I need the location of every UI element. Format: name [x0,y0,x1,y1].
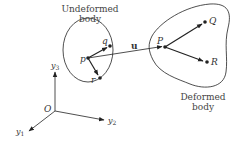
y1-axis [29,111,55,131]
u-label: u [131,41,138,51]
PR-vector [165,47,203,61]
point-R [205,60,209,64]
point-P [163,45,167,49]
undeformed-body: Undeformed body p q r [61,4,118,85]
point-Q [203,20,207,24]
label-r: r [91,75,96,85]
deformation-diagram: O y3 y2 y1 Undeformed body p q r u Defor… [0,0,238,143]
label-p: p [80,54,86,64]
y1-label: y1 [15,127,24,137]
deformed-label-line2: body [192,102,215,112]
undeformed-label-line1: Undeformed [61,4,118,14]
pr-vector [88,58,98,75]
undeformed-label-line2: body [79,14,102,24]
point-r [98,76,102,80]
origin-label: O [44,104,52,114]
deformed-label-line1: Deformed [180,92,225,102]
label-R: R [210,57,218,67]
y2-label: y2 [107,116,117,126]
undeformed-outline [63,18,113,82]
PQ-vector [165,24,202,47]
coordinate-axes: O y3 y2 y1 [15,61,117,137]
y3-label: y3 [50,61,60,71]
label-q: q [102,36,108,46]
point-q [108,44,112,48]
label-Q: Q [209,16,217,26]
y2-axis [55,111,104,120]
label-P: P [156,36,164,46]
deformed-body: Deformed body P Q R [149,4,229,112]
